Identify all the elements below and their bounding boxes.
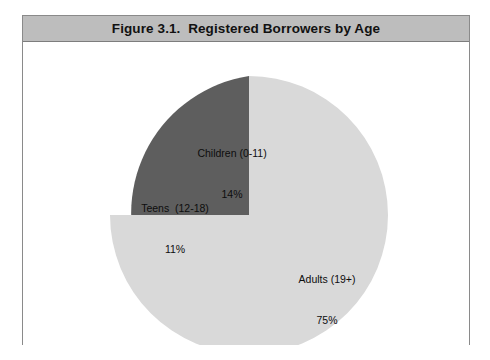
pie-chart bbox=[23, 43, 469, 345]
pie-chart-plot-area: Children (0-11) 14% Teens (12-18) 11% Ad… bbox=[23, 43, 469, 345]
figure-title: Figure 3.1. Registered Borrowers by Age bbox=[112, 22, 380, 36]
figure-header-band: Figure 3.1. Registered Borrowers by Age bbox=[23, 16, 469, 42]
figure-frame: Figure 3.1. Registered Borrowers by Age … bbox=[22, 15, 470, 345]
figure-root: Figure 3.1. Registered Borrowers by Age … bbox=[0, 0, 490, 360]
